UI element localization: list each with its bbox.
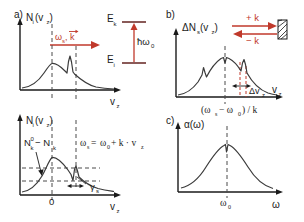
x-label-sub-z: z xyxy=(117,103,120,109)
panel-c-tag: c) xyxy=(166,115,174,126)
origin-tick-label: 0 xyxy=(49,196,54,207)
axis-note-open-omega: (ω xyxy=(201,105,210,116)
panel-c-y-label: α(ω) xyxy=(184,119,204,130)
y-label-sub-i-lower: i xyxy=(33,122,34,128)
omega-s-label: ω xyxy=(55,32,62,42)
k-vector-label: k xyxy=(70,32,75,42)
figure-container: a) N i (v z ) v z ω s , k xyxy=(0,0,304,222)
y-label-sub-i: i xyxy=(33,19,34,25)
x-label-v-lower: v xyxy=(110,201,115,212)
photon-energy-label: ħω xyxy=(137,36,150,47)
gamma-s-sub: s xyxy=(96,188,99,194)
panel-c-x-label: ω xyxy=(272,199,280,210)
y-label-delta-close: ) xyxy=(215,22,218,33)
eq-omega-0-sub: 0 xyxy=(107,144,110,150)
mirror-body xyxy=(278,20,287,39)
y-label-paren-v: (v xyxy=(35,12,43,23)
eq-plus-k-v: + k · v xyxy=(111,138,136,148)
omega-0-tick: ω xyxy=(220,197,227,208)
delta-vz-label: Δv xyxy=(249,86,260,96)
gamma-s-label: γ xyxy=(90,181,95,192)
pop-label-minus-N: − N xyxy=(35,137,50,148)
omega-k-comma: , xyxy=(65,32,68,42)
y-label-delta-paren-v: (v xyxy=(200,22,208,33)
saturation-spectroscopy-figure: a) N i (v z ) v z ω s , k xyxy=(0,0,304,222)
panel-b-tag: b) xyxy=(166,9,175,20)
y-label-close-paren: ) xyxy=(50,12,53,23)
mirror-icon xyxy=(278,20,287,39)
eq-equals: = xyxy=(91,138,96,148)
axis-note-close-k: ) / k xyxy=(242,105,258,116)
x-label-sub-z-lower: z xyxy=(117,208,120,214)
panel-a-tag: a) xyxy=(14,9,23,20)
axis-note-minus-omega: − ω xyxy=(219,105,233,115)
eq-omega-s: ω xyxy=(80,138,86,148)
eq-vz-sub: z xyxy=(141,144,144,150)
x-label-v: v xyxy=(110,96,115,107)
panel-b-x-label-sub-z: z xyxy=(279,91,282,97)
energy-label-Ei-sub: i xyxy=(114,62,115,68)
axis-note-sub-0: 0 xyxy=(238,111,241,117)
y-label-paren-v-lower: (v xyxy=(35,115,43,126)
y-label-delta-N: ΔN xyxy=(182,22,196,33)
eq-omega-0: ω xyxy=(100,138,106,148)
k-plus-label: + k xyxy=(246,12,259,23)
delta-vz-sub: z xyxy=(262,92,265,98)
panel-b-x-label-v: v xyxy=(272,84,277,95)
k-minus-label: − k xyxy=(246,35,259,46)
omega-0-tick-sub: 0 xyxy=(228,204,231,210)
